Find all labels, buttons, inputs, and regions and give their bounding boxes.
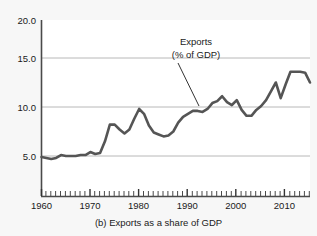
x-tick-label-1980: 1980 [128,200,149,211]
figure-caption: (b) Exports as a share of GDP [95,217,222,228]
annotation-label-line2: (% of GDP) [172,49,221,60]
y-tick-label-15: 15.0 [18,53,37,64]
y-tick-label-10: 10.0 [18,102,37,113]
x-tick-label-1960: 1960 [31,200,52,211]
x-tick-label-1990: 1990 [177,200,198,211]
x-tick-label-2010: 2010 [274,200,295,211]
y-tick-label-5: 5.0 [23,151,36,162]
figure-container: 20.0 15.0 10.0 5.0 1960 1970 1980 1990 2… [0,0,317,236]
y-tick-label-20: 20.0 [18,15,37,26]
x-tick-label-2000: 2000 [225,200,246,211]
exports-share-of-gdp-chart: 20.0 15.0 10.0 5.0 1960 1970 1980 1990 2… [0,0,317,236]
annotation-label-line1: Exports [180,36,212,47]
plot-area-background [41,20,310,196]
x-tick-label-1970: 1970 [79,200,100,211]
